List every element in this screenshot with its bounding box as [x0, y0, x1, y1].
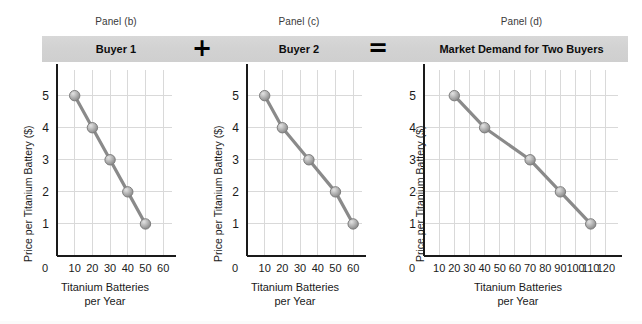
data-point-marker [555, 187, 565, 197]
x-tick-label: 0 [42, 262, 48, 274]
x-axis-title-panel-b: Titanium Batteries per Year [20, 280, 190, 308]
x-tick-label: 0 [409, 262, 415, 274]
x-tick-label: 60 [157, 262, 169, 274]
y-tick-label: 4 [232, 121, 239, 135]
y-axis-title-panel-b-label: Price per Titanium Battery ($) [22, 125, 34, 262]
panel-caption-d-label: Panel (d) [501, 16, 542, 27]
data-point-marker [140, 219, 150, 229]
y-tick-label: 4 [42, 121, 49, 135]
header-band: Buyer 1 + Buyer 2 = Market Demand for Tw… [42, 36, 628, 62]
y-axis-title-panel-d: Price per Titanium Battery ($) [414, 125, 426, 262]
x-tick-label: 50 [329, 262, 341, 274]
data-point-marker [449, 90, 459, 100]
data-point-marker [348, 219, 358, 229]
equals-icon-glyph: = [368, 34, 388, 62]
x-tick-label: 30 [463, 262, 475, 274]
x-axis-title-panel-b-line2: per Year [20, 294, 190, 308]
panel-caption-c: Panel (c) [225, 16, 373, 27]
x-tick-label: 30 [294, 262, 306, 274]
data-point-marker [479, 123, 489, 133]
data-point-marker [69, 90, 79, 100]
band-title-market-demand: Market Demand for Two Buyers [415, 36, 628, 62]
y-tick-label: 5 [42, 89, 49, 103]
y-tick-labels: 12345 [232, 89, 239, 231]
band-title-buyer-2-label: Buyer 2 [279, 43, 319, 55]
x-tick-label: 80 [539, 262, 551, 274]
x-tick-label: 60 [347, 262, 359, 274]
x-tick-label: 20 [86, 262, 98, 274]
y-tick-label: 1 [42, 217, 49, 231]
data-point-marker [330, 187, 340, 197]
y-tick-label: 1 [232, 217, 239, 231]
y-tick-label: 2 [42, 185, 49, 199]
x-tick-label: 50 [494, 262, 506, 274]
y-tick-labels: 12345 [42, 89, 49, 231]
x-axis-title-panel-d-line1: Titanium Batteries [418, 280, 618, 294]
chart-panel-c: 123450102030405060 Price per Titanium Ba… [190, 64, 400, 324]
y-axis-title-panel-b: Price per Titanium Battery ($) [22, 125, 34, 262]
x-axis-title-panel-d-line2: per Year [418, 294, 618, 308]
x-tick-label: 40 [122, 262, 134, 274]
x-tick-label: 10 [433, 262, 445, 274]
data-point-marker [277, 123, 287, 133]
band-title-buyer-1: Buyer 1 [42, 36, 190, 62]
x-axis-title-panel-d: Titanium Batteries per Year [418, 280, 618, 308]
y-tick-label: 5 [232, 89, 239, 103]
x-tick-label: 90 [554, 262, 566, 274]
demand-curves-figure: Panel (b) Panel (c) Panel (d) Buyer 1 + … [0, 0, 642, 324]
chart-panel-d: 123450102030405060708090100110120 Price … [392, 64, 642, 324]
data-point-marker [304, 155, 314, 165]
plus-icon-glyph: + [192, 34, 212, 62]
data-point-marker [87, 123, 97, 133]
chart-panel-b: 123450102030405060 Price per Titanium Ba… [0, 64, 210, 324]
x-tick-label: 0 [232, 262, 238, 274]
x-tick-label: 70 [524, 262, 536, 274]
x-tick-label: 10 [259, 262, 271, 274]
x-tick-label: 10 [69, 262, 81, 274]
data-point-marker [259, 90, 269, 100]
x-tick-label: 30 [104, 262, 116, 274]
data-point-marker [105, 155, 115, 165]
data-point-marker [123, 187, 133, 197]
y-tick-label: 5 [409, 89, 416, 103]
panel-caption-b: Panel (b) [42, 16, 190, 27]
x-tick-label: 40 [479, 262, 491, 274]
x-tick-labels: 0102030405060708090100110120 [409, 262, 615, 274]
data-point-marker [586, 219, 596, 229]
y-axis-title-panel-c-label: Price per Titanium Battery ($) [212, 125, 224, 262]
y-axis-title-panel-d-label: Price per Titanium Battery ($) [414, 125, 426, 262]
x-tick-label: 20 [448, 262, 460, 274]
x-axis-title-panel-c-line1: Titanium Batteries [210, 280, 380, 294]
y-axis-title-panel-c: Price per Titanium Battery ($) [212, 125, 224, 262]
x-tick-labels: 0102030405060 [232, 262, 359, 274]
x-tick-label: 20 [276, 262, 288, 274]
y-tick-label: 2 [232, 185, 239, 199]
x-axis-title-panel-c-line2: per Year [210, 294, 380, 308]
data-point-marker [525, 155, 535, 165]
panel-caption-b-label: Panel (b) [95, 16, 136, 27]
x-tick-label: 40 [312, 262, 324, 274]
x-axis-title-panel-b-line1: Titanium Batteries [20, 280, 190, 294]
x-tick-labels: 0102030405060 [42, 262, 169, 274]
x-tick-label: 120 [597, 262, 615, 274]
y-tick-label: 3 [42, 153, 49, 167]
x-axis-title-panel-c: Titanium Batteries per Year [210, 280, 380, 308]
equals-icon: = [346, 36, 410, 62]
x-tick-label: 60 [509, 262, 521, 274]
band-title-buyer-1-label: Buyer 1 [96, 43, 136, 55]
y-tick-label: 3 [232, 153, 239, 167]
panel-caption-d: Panel (d) [415, 16, 628, 27]
panel-caption-c-label: Panel (c) [279, 16, 320, 27]
x-tick-label: 50 [139, 262, 151, 274]
band-title-market-demand-label: Market Demand for Two Buyers [439, 43, 603, 55]
